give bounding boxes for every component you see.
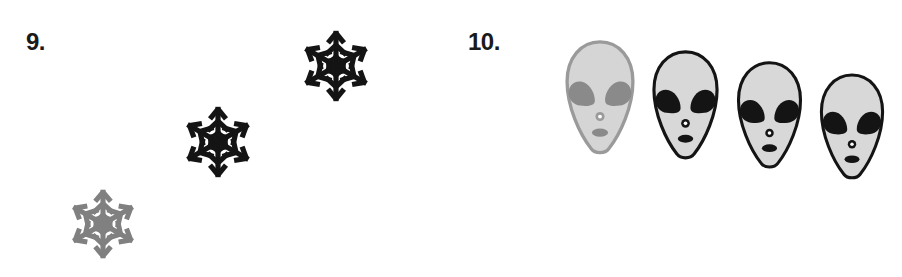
snowflake-3 [296,26,376,106]
alien-head-4 [818,72,886,184]
alien-head-2 [650,49,721,164]
snowflake-2 [178,102,258,182]
exercise-number-10: 10. [468,30,500,54]
exercise-number-9: 9. [26,30,45,54]
alien-head-3 [735,60,804,173]
snowflake-1 [64,185,142,263]
worksheet-page: 9. 10. [0,0,902,277]
alien-head-1 [563,39,637,159]
